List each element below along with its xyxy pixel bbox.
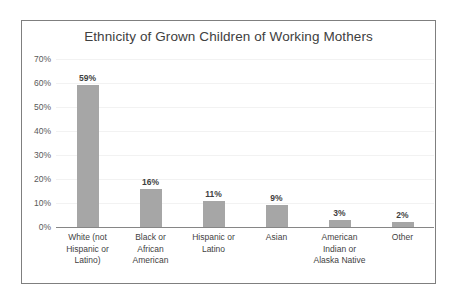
y-axis-tick-label: 30% [34,150,51,160]
bar-value-label: 16% [119,177,182,187]
x-axis-category-label: AmericanIndian orAlaska Native [306,232,373,267]
x-axis-category-label: Hispanic orLatino [180,232,247,255]
bar-group: 11%Hispanic orLatino [182,59,245,227]
x-axis-category-label-line: Other [369,232,436,244]
plot-area: 0%10%20%30%40%50%60%70% 59%White (notHis… [56,59,434,227]
bar-group: 16%Black orAfricanAmerican [119,59,182,227]
x-axis-category-label: Black orAfricanAmerican [117,232,184,267]
bar[interactable] [392,222,414,227]
bar-value-label: 9% [245,193,308,203]
x-axis-line [56,227,434,228]
bar-group: 59%White (notHispanic orLatino) [56,59,119,227]
x-axis-category-label-line: Hispanic or [180,232,247,244]
bar[interactable] [329,220,351,227]
x-axis-category-label-line: Asian [243,232,310,244]
y-axis-tick-label: 40% [34,126,51,136]
y-axis-tick-label: 60% [34,78,51,88]
bar[interactable] [140,189,162,227]
x-axis-category-label-line: American [117,255,184,267]
y-axis-tick-label: 20% [34,174,51,184]
y-axis-tick-label: 50% [34,102,51,112]
y-axis-tick-label: 10% [34,198,51,208]
x-axis-category-label-line: Indian or [306,244,373,256]
x-axis-category-label: White (notHispanic orLatino) [54,232,121,267]
x-axis-category-label-line: African [117,244,184,256]
x-axis-category-label-line: Hispanic or [54,244,121,256]
bar-group: 2%Other [371,59,434,227]
x-axis-category-label: Asian [243,232,310,244]
y-axis-tick-label: 0% [39,222,51,232]
bar[interactable] [203,201,225,227]
chart-container: Ethnicity of Grown Children of Working M… [21,20,436,284]
bar-value-label: 2% [371,210,434,220]
x-axis-category-label-line: American [306,232,373,244]
x-axis-category-label-line: Black or [117,232,184,244]
bar-value-label: 3% [308,208,371,218]
bar-group: 9%Asian [245,59,308,227]
x-axis-category-label-line: Alaska Native [306,255,373,267]
bar[interactable] [266,205,288,227]
x-axis-category-label: Other [369,232,436,244]
x-axis-category-label-line: White (not [54,232,121,244]
bar-group: 3%AmericanIndian orAlaska Native [308,59,371,227]
y-axis-tick-label: 70% [34,54,51,64]
bar[interactable] [77,85,99,227]
chart-title: Ethnicity of Grown Children of Working M… [22,29,435,44]
bar-value-label: 59% [56,73,119,83]
x-axis-category-label-line: Latino [180,244,247,256]
bar-value-label: 11% [182,189,245,199]
x-axis-category-label-line: Latino) [54,255,121,267]
